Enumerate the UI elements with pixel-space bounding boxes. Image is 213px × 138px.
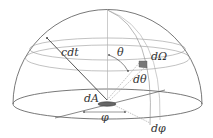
dA-disc <box>98 102 116 106</box>
label-d-theta: dθ <box>133 73 147 86</box>
label-cdt: cdt <box>61 46 79 59</box>
d-omega-patch <box>139 61 147 68</box>
label-theta: θ <box>117 46 124 59</box>
d-phi-line <box>112 104 150 123</box>
hemisphere-diagram: cdt θ dΩ dθ dA φ dφ <box>0 0 213 138</box>
label-dA: dA <box>84 92 99 105</box>
label-phi: φ <box>101 111 109 124</box>
label-d-phi: dφ <box>151 122 166 135</box>
label-d-omega: dΩ <box>151 50 167 63</box>
